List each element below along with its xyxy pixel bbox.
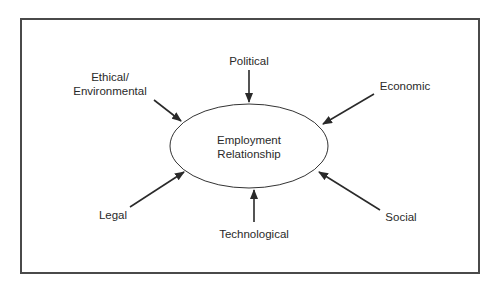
legal-label: Legal xyxy=(88,208,138,222)
economic-label: Economic xyxy=(370,79,440,93)
ethical-line1: Ethical/ xyxy=(60,70,160,84)
ethical-label: Ethical/ Environmental xyxy=(60,70,160,98)
center-line1: Employment xyxy=(199,133,299,147)
ethical-line2: Environmental xyxy=(60,84,160,98)
social-label: Social xyxy=(366,210,436,224)
social-arrow xyxy=(319,172,380,210)
economic-arrow xyxy=(323,94,374,124)
center-line2: Relationship xyxy=(199,147,299,161)
technological-label: Technological xyxy=(214,227,294,241)
legal-arrow xyxy=(130,172,184,207)
political-label: Political xyxy=(214,54,284,68)
center-label: Employment Relationship xyxy=(199,133,299,161)
ethical-arrow xyxy=(154,100,181,121)
